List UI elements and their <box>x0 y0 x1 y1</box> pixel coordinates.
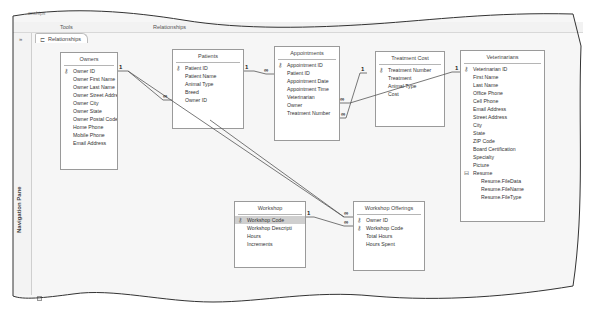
field-row[interactable]: Veterinarian <box>275 93 339 101</box>
field-row[interactable]: Breed <box>173 88 243 96</box>
table-workshop-offerings[interactable]: Workshop Offerings⚷Owner ID⚷Workshop Cod… <box>353 201 425 271</box>
field-list: ⚷Treatment NumberTreatmentAnimal TypeCos… <box>376 65 444 98</box>
field-row[interactable]: Cost <box>376 90 444 98</box>
field-row[interactable]: ⚷Patient ID <box>173 64 243 72</box>
field-row[interactable]: ⚷Workshop Code <box>354 224 424 232</box>
field-label: Resume.FileName <box>481 186 524 192</box>
table-title[interactable]: Appointments <box>278 47 336 60</box>
field-label: Office Phone <box>473 90 503 96</box>
field-row[interactable]: Resume.FileName <box>461 185 544 193</box>
field-row[interactable]: Cell Phone <box>461 97 544 105</box>
field-row[interactable]: ⊟Resume <box>461 169 544 177</box>
field-row[interactable]: Patient ID <box>275 69 339 77</box>
field-list: ⚷Owner ID⚷Workshop CodeTotal HoursHours … <box>354 215 424 248</box>
field-row[interactable]: Picture <box>461 161 544 169</box>
field-row[interactable]: Office Phone <box>461 89 544 97</box>
field-row[interactable]: ⚷Treatment Number <box>376 66 444 74</box>
table-workshop[interactable]: Workshop⚷Workshop CodeWorkshop Descripti… <box>234 201 306 268</box>
field-list: ⚷Owner IDOwner First NameOwner Last Name… <box>61 66 117 147</box>
relationships-icon: ⊏ <box>40 36 45 43</box>
field-row[interactable]: State <box>461 129 544 137</box>
field-row[interactable]: ⚷Owner ID <box>354 216 424 224</box>
field-row[interactable]: Owner Last Name <box>61 83 117 91</box>
table-title[interactable]: Owners <box>64 53 114 66</box>
field-row[interactable]: Workshop Descripti <box>235 224 305 232</box>
field-label: Owner First Name <box>73 76 115 82</box>
field-label: Email Address <box>73 140 106 146</box>
field-row[interactable]: Treatment Number <box>275 109 339 117</box>
field-row[interactable]: Last Name <box>461 81 544 89</box>
field-label: Animal Type <box>388 83 416 89</box>
table-patients[interactable]: Patients⚷Patient IDPatient NameAnimal Ty… <box>172 49 244 129</box>
field-row[interactable]: Board Certification <box>461 145 544 153</box>
field-row[interactable]: Resume.FileData <box>461 177 544 185</box>
nav-pane-expand-icon[interactable]: » <box>19 36 22 42</box>
field-row[interactable]: Owner City <box>61 99 117 107</box>
field-row[interactable]: Hours Spent <box>354 240 424 248</box>
ribbon-context-group-tools[interactable]: Tools <box>60 24 73 30</box>
field-row[interactable]: Owner <box>275 101 339 109</box>
field-row[interactable]: Resume.FileType <box>461 193 544 201</box>
field-row[interactable]: ⚷Appointment ID <box>275 61 339 69</box>
field-row[interactable]: Home Phone <box>61 123 117 131</box>
field-row[interactable]: Appointment Date <box>275 77 339 85</box>
field-label: Treatment Number <box>287 110 330 116</box>
primary-key-icon: ⚷ <box>176 64 180 72</box>
field-row[interactable]: ⚷Owner ID <box>61 67 117 75</box>
table-title[interactable]: Veterinarians <box>464 51 541 64</box>
table-appointments[interactable]: Appointments⚷Appointment IDPatient IDApp… <box>274 46 340 141</box>
table-title[interactable]: Treatment Cost <box>379 52 441 65</box>
field-row[interactable]: Email Address <box>461 105 544 113</box>
field-row[interactable]: Owner Street Addres <box>61 91 117 99</box>
field-row[interactable]: Owner State <box>61 107 117 115</box>
field-label: Street Address <box>473 114 507 120</box>
table-title[interactable]: Workshop Offerings <box>357 202 421 215</box>
scrollbar-corner[interactable] <box>37 296 42 301</box>
table-title[interactable]: Workshop <box>238 202 302 215</box>
primary-key-icon: ⚷ <box>238 216 242 224</box>
navigation-pane[interactable]: » Navigation Pane <box>13 33 32 295</box>
field-row[interactable]: Appointment Time <box>275 85 339 93</box>
field-row[interactable]: Specialty <box>461 153 544 161</box>
field-label: Patient ID <box>287 70 310 76</box>
table-treatment-cost[interactable]: Treatment Cost⚷Treatment NumberTreatment… <box>375 51 445 127</box>
field-row[interactable]: City <box>461 121 544 129</box>
field-label: Workshop Code <box>247 217 284 223</box>
tab-relationships[interactable]: ⊏ Relationships <box>35 33 88 43</box>
field-row[interactable]: Increments <box>235 240 305 248</box>
table-owners[interactable]: Owners⚷Owner IDOwner First NameOwner Las… <box>60 52 118 170</box>
field-label: Treatment <box>388 75 411 81</box>
ribbon-tab-relationships[interactable]: Relationships <box>153 24 186 30</box>
primary-key-icon: ⚷ <box>379 66 383 74</box>
field-row[interactable]: Hours <box>235 232 305 240</box>
field-row[interactable]: First Name <box>461 73 544 81</box>
field-label: Animal Type <box>185 81 213 87</box>
field-label: Last Name <box>473 82 498 88</box>
field-list: ⚷Patient IDPatient NameAnimal TypeBreedO… <box>173 63 243 104</box>
field-row[interactable]: Treatment <box>376 74 444 82</box>
field-label: Owner Postal Code <box>73 116 117 122</box>
field-row[interactable]: Animal Type <box>376 82 444 90</box>
field-row[interactable]: ZIP Code <box>461 137 544 145</box>
collapse-group-icon[interactable]: ⊟ <box>464 169 469 177</box>
field-row[interactable]: Patient Name <box>173 72 243 80</box>
field-row[interactable]: Total Hours <box>354 232 424 240</box>
field-row[interactable]: ⚷Veterinarian ID <box>461 65 544 73</box>
field-row[interactable]: Owner Postal Code <box>61 115 117 123</box>
field-label: Owner Street Addres <box>73 92 117 98</box>
field-label: ZIP Code <box>473 138 495 144</box>
field-row[interactable]: ⚷Workshop Code <box>235 216 305 224</box>
table-veterinarians[interactable]: Veterinarians⚷Veterinarian IDFirst NameL… <box>460 50 545 222</box>
table-title[interactable]: Patients <box>176 50 240 63</box>
field-row[interactable]: Street Address <box>461 113 544 121</box>
field-row[interactable]: Mobile Phone <box>61 131 117 139</box>
field-row[interactable]: Animal Type <box>173 80 243 88</box>
field-row[interactable]: Email Address <box>61 139 117 147</box>
field-label: Appointment Date <box>287 78 329 84</box>
field-row[interactable]: Owner First Name <box>61 75 117 83</box>
field-label: Breed <box>185 89 199 95</box>
field-list: ⚷Workshop CodeWorkshop DescriptiHoursInc… <box>235 215 305 248</box>
field-label: Owner State <box>73 108 102 114</box>
field-row[interactable]: Owner ID <box>173 96 243 104</box>
field-label: Owner ID <box>366 217 388 223</box>
